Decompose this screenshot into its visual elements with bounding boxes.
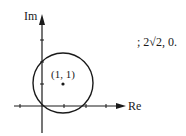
answer-text: ; 2√2, 0. (137, 36, 177, 48)
real-axis-arrow-icon (116, 103, 126, 109)
center-point-label: (1, 1) (51, 68, 75, 80)
real-axis (14, 103, 126, 109)
imaginary-axis-arrow-icon (39, 14, 45, 25)
center-point (61, 82, 64, 85)
real-axis-label: Re (128, 100, 141, 112)
imaginary-axis-label: Im (24, 10, 37, 22)
imaginary-axis (39, 14, 45, 133)
